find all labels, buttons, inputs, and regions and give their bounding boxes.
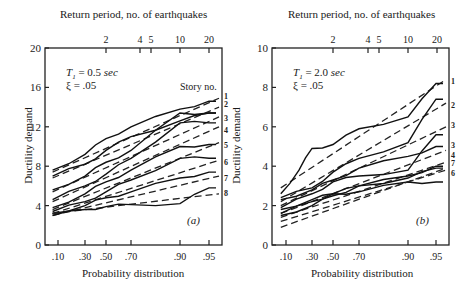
y-axis-label: Ductility demand bbox=[23, 106, 34, 186]
story-label: 2 bbox=[451, 101, 455, 110]
story-label: 3 bbox=[451, 141, 455, 150]
x-tick-label: .95 bbox=[203, 251, 216, 262]
story-label: 7 bbox=[451, 159, 455, 168]
data-line-story-2 bbox=[53, 113, 216, 176]
y-tick-label: 8 bbox=[36, 160, 42, 172]
story-label: 5 bbox=[224, 141, 228, 150]
y-tick-label: 2 bbox=[263, 200, 269, 212]
y-tick-label: 0 bbox=[36, 239, 42, 251]
top-tick-label: 20 bbox=[432, 34, 442, 45]
y-tick-label: 16 bbox=[30, 81, 42, 93]
y-tick-label: 6 bbox=[263, 121, 269, 133]
x-axis-label: Probability distribution bbox=[311, 268, 413, 279]
x-tick-label: .50 bbox=[100, 251, 113, 262]
legend-header: Story no. bbox=[180, 82, 217, 92]
story-label: 3 bbox=[224, 114, 228, 123]
y-tick-label: 8 bbox=[263, 81, 269, 93]
y-tick-label: 4 bbox=[36, 200, 42, 212]
y-tick-label: 4 bbox=[263, 160, 269, 172]
x-tick-label: .10 bbox=[280, 251, 293, 262]
story-label: 6 bbox=[224, 158, 228, 167]
chart-panel-b: Return period, no. of earthquakes .10.30… bbox=[233, 0, 466, 294]
top-tick-label: 2 bbox=[331, 34, 336, 45]
top-tick-label: 4 bbox=[138, 34, 143, 45]
story-label: 6 bbox=[451, 169, 455, 178]
y-axis-label: Ductility demand bbox=[231, 106, 242, 186]
y-tick-label: 0 bbox=[263, 239, 269, 251]
top-tick-label: 5 bbox=[377, 34, 382, 45]
story-label: 7 bbox=[224, 174, 228, 183]
x-tick-label: .95 bbox=[430, 251, 443, 262]
x-tick-label: .10 bbox=[52, 251, 65, 262]
x-axis-label: Probability distribution bbox=[82, 268, 184, 279]
x-tick-label: .70 bbox=[125, 251, 138, 262]
top-tick-label: 10 bbox=[175, 34, 185, 45]
x-tick-label: .70 bbox=[353, 251, 366, 262]
top-tick-label: 10 bbox=[403, 34, 413, 45]
plot-area-b: .10.30.50.70.90.95245102002468101233476 bbox=[233, 0, 466, 294]
y-tick-label: 10 bbox=[257, 42, 269, 54]
story-label: 4 bbox=[224, 126, 228, 135]
story-label: 1 bbox=[451, 77, 455, 86]
y-tick-label: 20 bbox=[30, 42, 42, 54]
x-tick-label: .30 bbox=[79, 251, 92, 262]
story-label: 2 bbox=[224, 100, 228, 109]
plot-area-a: .10.30.50.70.90.952451020048121620123456… bbox=[0, 0, 233, 294]
damping-annotation: ξ = .05 bbox=[66, 80, 96, 91]
story-label: 3 bbox=[451, 121, 455, 130]
x-tick-label: .90 bbox=[402, 251, 415, 262]
top-tick-label: 2 bbox=[104, 34, 109, 45]
damping-annotation: ξ = .05 bbox=[293, 80, 323, 91]
data-line-story-1 bbox=[281, 83, 443, 193]
x-tick-label: .50 bbox=[327, 251, 340, 262]
top-tick-label: 5 bbox=[149, 34, 154, 45]
x-tick-label: .90 bbox=[174, 251, 187, 262]
panel-label-a: (a) bbox=[187, 215, 200, 226]
x-tick-label: .30 bbox=[306, 251, 319, 262]
panel-label-b: (b) bbox=[416, 215, 429, 226]
top-tick-label: 4 bbox=[366, 34, 371, 45]
top-tick-label: 20 bbox=[204, 34, 214, 45]
chart-panel-a: Return period, no. of earthquakes .10.30… bbox=[0, 0, 233, 294]
data-line-story-8 bbox=[53, 188, 216, 216]
story-label: 8 bbox=[224, 189, 228, 198]
